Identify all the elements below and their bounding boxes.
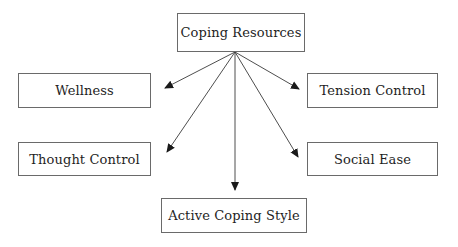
arrow-to-thought-control	[167, 52, 235, 152]
node-tension-control: Tension Control	[307, 73, 438, 108]
node-label: Tension Control	[320, 83, 426, 98]
arrow-to-tension-control	[235, 52, 299, 89]
node-label: Coping Resources	[181, 25, 302, 40]
arrow-to-wellness	[165, 52, 235, 88]
node-label: Social Ease	[334, 152, 411, 167]
node-label: Active Coping Style	[168, 208, 300, 223]
node-coping-resources: Coping Resources	[177, 13, 305, 52]
node-social-ease: Social Ease	[307, 142, 438, 176]
node-wellness: Wellness	[18, 73, 151, 108]
node-active-coping-style: Active Coping Style	[161, 198, 307, 233]
node-thought-control: Thought Control	[18, 142, 151, 176]
coping-resources-diagram: Coping Resources Wellness Thought Contro…	[0, 0, 458, 247]
arrow-to-social-ease	[235, 52, 298, 157]
node-label: Thought Control	[29, 152, 139, 167]
node-label: Wellness	[55, 83, 114, 98]
